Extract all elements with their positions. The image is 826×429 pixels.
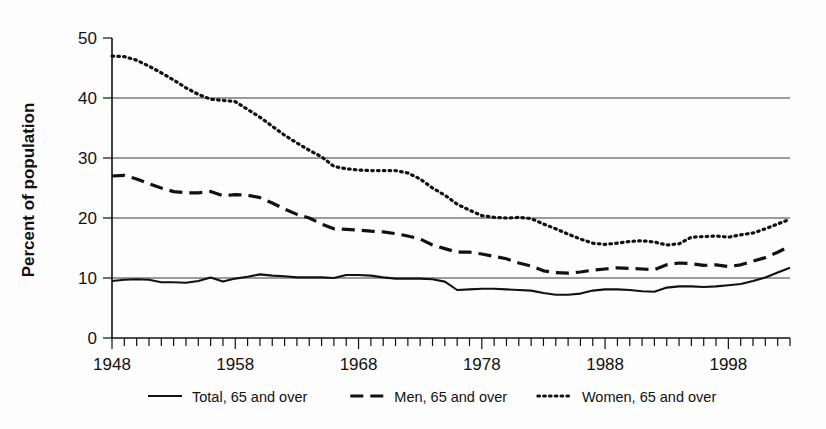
x-tick-label-1978: 1978 [463, 355, 501, 374]
chart-legend: Total, 65 and overMen, 65 and overWomen,… [148, 389, 716, 405]
y-tick-label-10: 10 [78, 269, 97, 288]
x-tick-label-1988: 1988 [586, 355, 624, 374]
y-axis-tick-marks [103, 38, 112, 338]
data-series-group [112, 56, 790, 295]
y-tick-label-20: 20 [78, 209, 97, 228]
y-tick-label-40: 40 [78, 89, 97, 108]
series-line-women [112, 56, 790, 245]
legend-label-women: Women, 65 and over [582, 389, 717, 405]
legend-label-total: Total, 65 and over [192, 389, 307, 405]
x-tick-label-1998: 1998 [709, 355, 747, 374]
legend-label-men: Men, 65 and over [394, 389, 507, 405]
x-axis-tick-labels: 194819581968197819881998 [93, 355, 747, 374]
x-tick-label-1968: 1968 [340, 355, 378, 374]
x-axis-tick-marks [112, 338, 790, 349]
x-tick-label-1948: 1948 [93, 355, 131, 374]
y-tick-label-30: 30 [78, 149, 97, 168]
y-tick-label-50: 50 [78, 29, 97, 48]
series-line-total [112, 268, 790, 295]
figure-container: Percent of population 01020304050 194819… [0, 0, 826, 429]
x-tick-label-1958: 1958 [216, 355, 254, 374]
y-axis-title: Percent of population [19, 103, 38, 278]
y-axis-tick-labels: 01020304050 [78, 29, 97, 348]
series-line-men [112, 175, 790, 273]
y-tick-label-0: 0 [88, 329, 97, 348]
line-chart: Percent of population 01020304050 194819… [0, 0, 826, 429]
